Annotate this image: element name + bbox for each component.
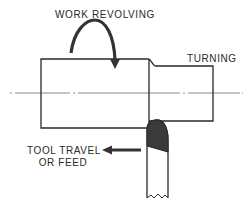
tool-travel-label: TOOL TRAVEL [27,145,99,156]
tool-tip [147,120,168,152]
or-feed-label: OR FEED [27,157,99,168]
feed-arrow-icon [102,146,141,155]
work-revolving-label: WORK REVOLVING [55,9,155,20]
rotation-arrow-icon [71,20,120,69]
workpiece-shoulder [149,59,155,128]
workpiece-large-diameter [41,59,149,128]
workpiece-turned-diameter [149,66,213,121]
turning-label: TURNING [187,53,237,64]
turning-diagram [0,0,249,212]
cutting-tool [147,120,168,198]
